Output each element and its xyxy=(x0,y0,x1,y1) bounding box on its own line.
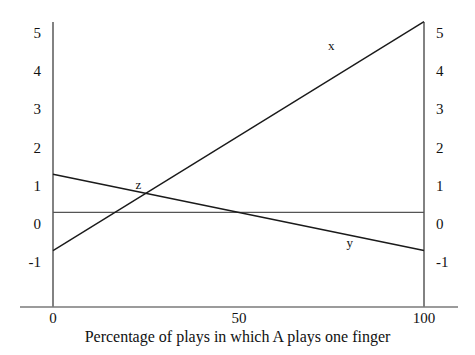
series-x-line xyxy=(53,22,424,251)
series-x-label: x xyxy=(328,39,335,52)
right-tick-label-0: 0 xyxy=(436,217,444,232)
chart-plot-area xyxy=(0,0,475,355)
bottom-tick-label-0: 0 xyxy=(49,311,57,326)
bottom-tick-label-100: 100 xyxy=(413,311,436,326)
left-tick-label-neg1: -1 xyxy=(29,255,42,270)
right-tick-label-5: 5 xyxy=(436,26,444,41)
left-tick-label-1: 1 xyxy=(34,179,42,194)
right-tick-label-1: 1 xyxy=(436,179,444,194)
bottom-tick-label-50: 50 xyxy=(232,311,247,326)
left-tick-label-2: 2 xyxy=(34,141,42,156)
right-tick-label-4: 4 xyxy=(436,64,444,79)
left-tick-label-3: 3 xyxy=(34,102,42,117)
right-tick-label-neg1: -1 xyxy=(436,255,449,270)
chart-container: 5 4 3 2 1 0 -1 5 4 3 2 1 0 -1 0 50 100 x… xyxy=(0,0,475,355)
left-tick-label-5: 5 xyxy=(34,26,42,41)
x-axis-title: Percentage of plays in which A plays one… xyxy=(0,328,475,346)
right-tick-label-3: 3 xyxy=(436,102,444,117)
series-z-label: z xyxy=(135,177,141,190)
left-tick-label-4: 4 xyxy=(34,64,42,79)
series-y-label: y xyxy=(347,236,354,249)
left-tick-label-0: 0 xyxy=(34,217,42,232)
right-tick-label-2: 2 xyxy=(436,141,444,156)
